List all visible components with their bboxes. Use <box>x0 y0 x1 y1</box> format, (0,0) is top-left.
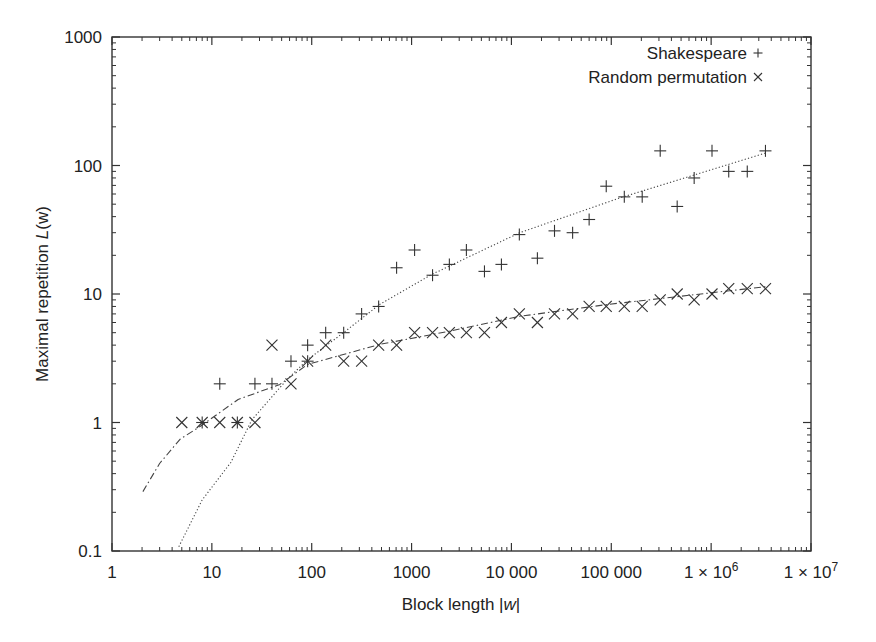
cross-data-point <box>601 301 612 312</box>
plus-data-point <box>671 200 683 212</box>
plus-data-point <box>513 229 525 241</box>
cross-data-point <box>176 417 187 428</box>
minor-ticks <box>112 37 811 551</box>
cross-data-point <box>285 378 296 389</box>
plus-data-point <box>320 327 332 339</box>
cross-data-point <box>496 317 507 328</box>
x-tick-label: 1 × 106 <box>684 560 739 582</box>
cross-data-point <box>672 289 683 300</box>
cross-data-point <box>444 327 455 338</box>
y-tick-label: 0.1 <box>78 542 102 561</box>
plus-data-point <box>214 378 226 390</box>
fit-lines <box>143 153 766 547</box>
plus-data-point <box>249 378 261 390</box>
y-axis-title: Maximal repetition L(w) <box>33 206 52 382</box>
chart-figure: 110100100010 000100 0001 × 1061 × 107 0.… <box>0 0 876 642</box>
plus-data-point <box>427 269 439 281</box>
plus-data-point <box>706 145 718 157</box>
plot-frame <box>112 37 811 551</box>
y-tick-label: 1000 <box>64 28 102 47</box>
major-ticks <box>112 37 811 551</box>
plus-data-point <box>356 308 368 320</box>
plot-area: 110100100010 000100 0001 × 1061 × 107 0.… <box>64 28 838 582</box>
legend-label-random-permutation: Random permutation <box>588 68 747 87</box>
plus-data-point <box>409 244 421 256</box>
cross-data-point <box>249 417 260 428</box>
cross-data-point <box>549 308 560 319</box>
plus-data-point <box>460 244 472 256</box>
cross-data-point <box>584 301 595 312</box>
plus-data-point <box>285 355 297 367</box>
cross-data-point <box>637 301 648 312</box>
x-tick-label: 100 000 <box>581 563 642 582</box>
plus-data-point <box>723 165 735 177</box>
plus-data-point <box>549 225 561 237</box>
cross-marker-icon <box>754 73 762 81</box>
x-tick-label: 100 <box>298 563 326 582</box>
cross-data-point <box>356 356 367 367</box>
x-tick-label: 10 000 <box>485 563 537 582</box>
plus-data-point <box>688 172 700 184</box>
cross-data-point <box>338 356 349 367</box>
plus-data-point <box>478 265 490 277</box>
cross-data-point <box>707 289 718 300</box>
plus-data-point <box>741 165 753 177</box>
cross-data-point <box>514 308 525 319</box>
y-axis-tick-labels: 0.11101001000 <box>64 28 102 561</box>
cross-data-point <box>409 327 420 338</box>
cross-data-point <box>532 317 543 328</box>
plus-data-point <box>600 180 612 192</box>
random-permutation-fit-curve <box>143 287 766 492</box>
cross-data-point <box>567 308 578 319</box>
y-tick-label: 1 <box>93 414 102 433</box>
cross-data-point <box>479 327 490 338</box>
cross-data-point <box>427 327 438 338</box>
x-tick-label: 10 <box>202 563 221 582</box>
x-tick-label: 1 <box>107 563 116 582</box>
cross-data-point <box>689 294 700 305</box>
cross-data-point <box>214 417 225 428</box>
x-tick-label: 1000 <box>393 563 431 582</box>
y-tick-label: 100 <box>74 157 102 176</box>
y-tick-label: 10 <box>83 285 102 304</box>
plus-marker-icon <box>754 49 763 58</box>
plus-data-point <box>302 339 314 351</box>
cross-data-point <box>373 340 384 351</box>
cross-data-point <box>266 340 277 351</box>
plus-data-point <box>583 213 595 225</box>
legend-label-shakespeare: Shakespeare <box>647 44 747 63</box>
plus-data-point <box>531 252 543 264</box>
cross-data-point <box>320 340 331 351</box>
plus-data-point <box>567 227 579 239</box>
cross-data-point <box>461 327 472 338</box>
data-markers <box>176 145 771 429</box>
cross-data-point <box>655 294 666 305</box>
x-axis-tick-labels: 110100100010 000100 0001 × 1061 × 107 <box>107 560 838 582</box>
plus-data-point <box>391 262 403 274</box>
plus-data-point <box>759 145 771 157</box>
x-axis-title: Block length |w| <box>402 595 520 614</box>
x-tick-label: 1 × 107 <box>784 560 839 582</box>
plus-data-point <box>495 258 507 270</box>
plus-data-point <box>618 191 630 203</box>
legend: Shakespeare Random permutation <box>588 44 762 87</box>
plus-data-point <box>654 145 666 157</box>
cross-data-point <box>760 283 771 294</box>
plus-data-point <box>338 327 350 339</box>
cross-data-point <box>723 283 734 294</box>
plus-data-point <box>266 378 278 390</box>
